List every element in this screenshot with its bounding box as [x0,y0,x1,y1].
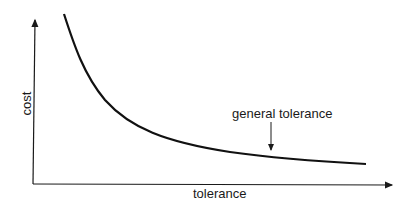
y-axis-label: cost [19,84,34,124]
cost-curve [64,14,366,164]
general-tolerance-annotation: general tolerance [232,106,332,121]
cost-tolerance-diagram [0,0,407,214]
x-axis [33,184,392,185]
x-axis-label: tolerance [193,186,246,201]
